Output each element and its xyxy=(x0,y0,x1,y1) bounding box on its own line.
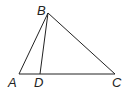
label-d: D xyxy=(34,75,43,89)
label-a: A xyxy=(7,75,17,89)
segment-bc xyxy=(48,13,115,74)
triangle-diagram: B A D C xyxy=(0,0,132,89)
label-c: C xyxy=(112,75,122,89)
label-b: B xyxy=(37,3,46,18)
